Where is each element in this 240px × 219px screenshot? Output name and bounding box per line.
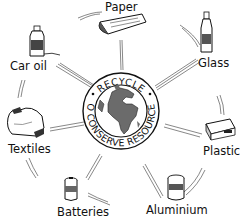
recycle-diagram: RECYCLE TO CONSERVE RESOURCES Paper Glas… <box>0 0 240 219</box>
item-label-car-oil: Car oil <box>10 60 47 72</box>
oil-can-icon <box>0 0 240 219</box>
